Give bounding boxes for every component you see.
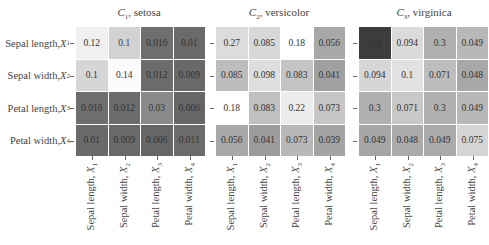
x-tick <box>473 156 474 160</box>
heatmap-cell: 0.085 <box>249 27 281 59</box>
column-label: Sepal length, X1 <box>85 163 99 243</box>
heatmap-cell: 0.009 <box>174 60 206 92</box>
column-label: Petal width, X4 <box>183 163 197 243</box>
row-labels: Sepal length, X1 Sepal width, X2 Petal l… <box>0 27 70 157</box>
panel-title-versicolor: C2, versicolor <box>216 6 342 21</box>
heatmap-cell: 0.012 <box>109 92 141 124</box>
row-label: Petal width, X4 <box>0 125 70 158</box>
x-tick <box>157 156 158 160</box>
column-label: Petal width, X4 <box>323 163 337 243</box>
panel-title-virginica: C3, virginica <box>359 6 489 21</box>
y-tick <box>210 141 214 142</box>
heatmap-cell: 0.073 <box>314 92 346 124</box>
heatmap-versicolor: 0.270.0850.180.0560.0850.0980.0830.0410.… <box>216 27 345 156</box>
heatmap-cell: 0.12 <box>76 27 108 59</box>
title-name: , versicolor <box>260 6 309 18</box>
heatmap-cell: 0.016 <box>76 92 108 124</box>
y-tick <box>353 76 357 77</box>
column-label: Sepal length, X1 <box>368 163 382 243</box>
x-tick <box>330 156 331 160</box>
heatmap-setosa: 0.120.10.0160.010.10.140.0120.0090.0160.… <box>76 27 205 156</box>
heatmap-cell: 0.016 <box>141 27 173 59</box>
heatmap-cell: 0.006 <box>141 125 173 157</box>
heatmap-cell: 0.1 <box>109 27 141 59</box>
x-tick <box>190 156 191 160</box>
heatmap-cell: 0.071 <box>392 92 424 124</box>
heatmap-cell: 0.27 <box>216 27 248 59</box>
heatmap-cell: 0.006 <box>174 92 206 124</box>
heatmap-cell: 0.083 <box>249 92 281 124</box>
y-tick <box>70 43 74 44</box>
heatmap-cell: 0.039 <box>314 125 346 157</box>
y-tick <box>210 43 214 44</box>
row-label: Petal length, X3 <box>0 92 70 125</box>
row-label: Sepal length, X1 <box>0 27 70 60</box>
heatmap-cell: 0.049 <box>457 92 489 124</box>
heatmap-cell: 0.041 <box>314 60 346 92</box>
heatmap-cell: 0.048 <box>457 60 489 92</box>
column-label: Sepal width, X2 <box>401 163 415 243</box>
heatmap-cell: 0.01 <box>76 125 108 157</box>
heatmap-cell: 0.01 <box>174 27 206 59</box>
y-tick <box>210 108 214 109</box>
panel-title-setosa: C1, setosa <box>76 6 202 21</box>
title-symbol: C <box>396 6 403 18</box>
heatmap-cell: 0.073 <box>281 125 313 157</box>
y-tick <box>70 108 74 109</box>
heatmap-cell: 0.098 <box>249 60 281 92</box>
heatmap-cell: 0.4 <box>359 27 391 59</box>
heatmap-cell: 0.1 <box>76 60 108 92</box>
heatmap-cell: 0.049 <box>359 125 391 157</box>
column-label: Sepal width, X2 <box>258 163 272 243</box>
heatmap-cell: 0.083 <box>281 60 313 92</box>
y-tick <box>70 141 74 142</box>
column-label: Petal length, X3 <box>150 163 164 243</box>
column-label: Petal length, X3 <box>433 163 447 243</box>
heatmap-cell: 0.075 <box>457 125 489 157</box>
heatmap-cell: 0.14 <box>109 60 141 92</box>
x-tick <box>297 156 298 160</box>
column-label: Sepal length, X1 <box>225 163 239 243</box>
y-tick <box>353 108 357 109</box>
x-tick <box>408 156 409 160</box>
heatmap-cell: 0.071 <box>424 60 456 92</box>
heatmap-cell: 0.094 <box>359 60 391 92</box>
heatmap-cell: 0.049 <box>457 27 489 59</box>
heatmap-cell: 0.3 <box>424 27 456 59</box>
title-name: , virginica <box>407 6 451 18</box>
heatmap-virginica: 0.40.0940.30.0490.0940.10.0710.0480.30.0… <box>359 27 488 156</box>
heatmap-cell: 0.049 <box>424 125 456 157</box>
column-label: Petal length, X3 <box>290 163 304 243</box>
heatmap-cell: 0.094 <box>392 27 424 59</box>
heatmap-cell: 0.009 <box>109 125 141 157</box>
x-tick <box>92 156 93 160</box>
heatmap-cell: 0.22 <box>281 92 313 124</box>
x-tick <box>440 156 441 160</box>
heatmap-cell: 0.041 <box>249 125 281 157</box>
column-label: Sepal width, X2 <box>118 163 132 243</box>
y-tick <box>353 141 357 142</box>
heatmap-cell: 0.3 <box>359 92 391 124</box>
title-symbol: C <box>117 6 124 18</box>
heatmap-cell: 0.085 <box>216 60 248 92</box>
row-label: Sepal width, X2 <box>0 60 70 93</box>
y-tick <box>353 43 357 44</box>
heatmap-cell: 0.056 <box>314 27 346 59</box>
y-tick <box>210 76 214 77</box>
x-tick <box>265 156 266 160</box>
title-name: , setosa <box>128 6 160 18</box>
column-label: Petal width, X4 <box>466 163 480 243</box>
heatmap-cell: 0.1 <box>392 60 424 92</box>
heatmap-cell: 0.18 <box>216 92 248 124</box>
x-tick <box>125 156 126 160</box>
heatmap-cell: 0.18 <box>281 27 313 59</box>
y-tick <box>70 76 74 77</box>
heatmap-cell: 0.012 <box>141 60 173 92</box>
x-tick <box>375 156 376 160</box>
x-tick <box>232 156 233 160</box>
heatmap-cell: 0.3 <box>424 92 456 124</box>
heatmap-cell: 0.011 <box>174 125 206 157</box>
heatmap-cell: 0.03 <box>141 92 173 124</box>
heatmap-cell: 0.056 <box>216 125 248 157</box>
heatmap-cell: 0.048 <box>392 125 424 157</box>
